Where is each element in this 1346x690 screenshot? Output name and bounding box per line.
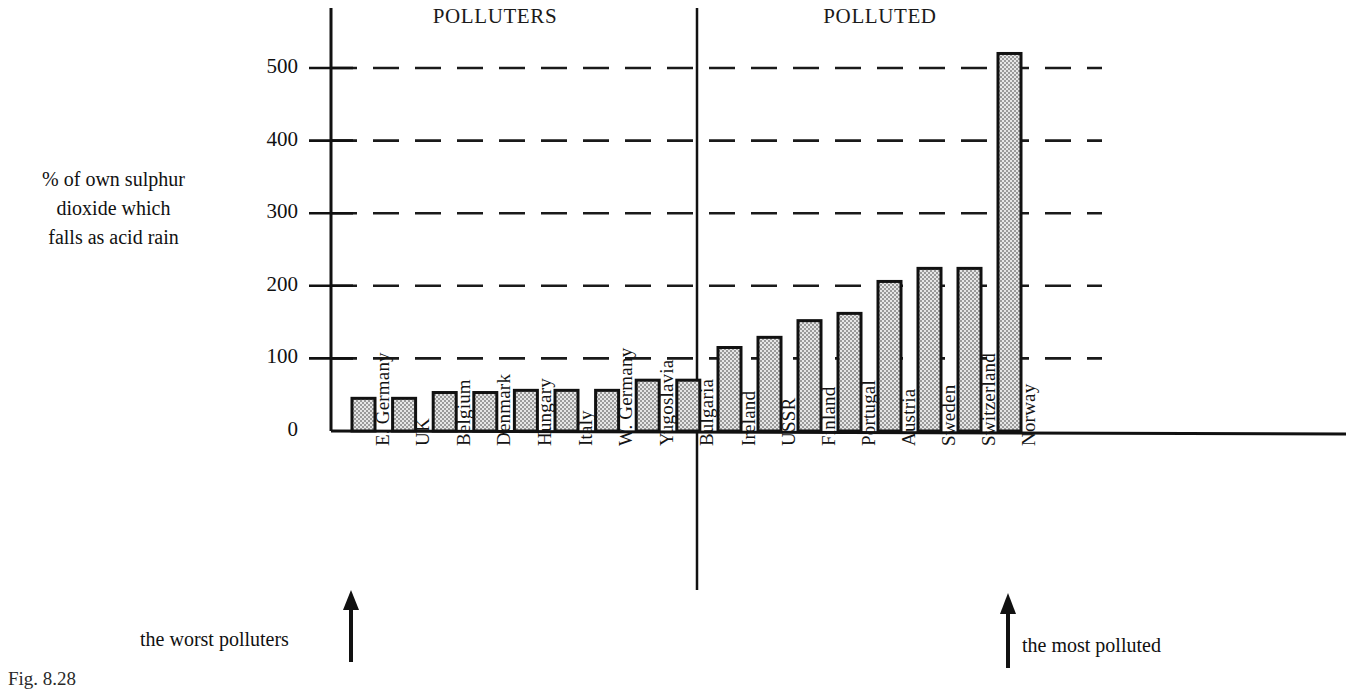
- category-label: UK: [412, 418, 434, 446]
- gridlines: [331, 68, 1102, 358]
- category-label: Ireland: [738, 391, 760, 446]
- category-label: Yugoslavia: [656, 360, 678, 446]
- category-label: USSR: [778, 398, 800, 446]
- group-title-polluters: POLLUTERS: [360, 4, 630, 29]
- category-label: W. Germany: [615, 348, 637, 446]
- category-label: Bulgaria: [696, 379, 718, 446]
- category-label: Italy: [575, 410, 597, 446]
- y-tick-label-0: 0: [238, 417, 298, 442]
- annotation-most-polluted: the most polluted: [1022, 634, 1161, 657]
- category-label: Denmark: [493, 374, 515, 446]
- category-label: Portugal: [858, 380, 880, 446]
- y-tick-label-100: 100: [238, 344, 298, 369]
- y-axis-title-line-3: falls as acid rain: [6, 223, 221, 252]
- category-label: Norway: [1018, 384, 1040, 446]
- category-label: Switzerland: [978, 353, 1000, 446]
- y-tick-label-500: 500: [238, 54, 298, 79]
- category-label: Sweden: [938, 385, 960, 446]
- category-label: Hungary: [534, 378, 556, 446]
- y-axis-title-line-1: % of own sulphur: [6, 165, 221, 194]
- y-tick-label-300: 300: [238, 199, 298, 224]
- y-axis-title: % of own sulphur dioxide which falls as …: [6, 165, 221, 252]
- group-title-polluted: POLLUTED: [745, 4, 1015, 29]
- bar: [998, 53, 1021, 431]
- worst-polluters-arrow: [343, 590, 359, 662]
- category-label: Belgium: [453, 379, 475, 446]
- bar-series: [352, 53, 1021, 431]
- category-label: Finland: [818, 387, 840, 446]
- y-tick-label-200: 200: [238, 272, 298, 297]
- figure-caption: Fig. 8.28: [8, 668, 76, 690]
- category-label: Austria: [898, 389, 920, 446]
- category-label: E. Germany: [372, 352, 394, 446]
- annotation-worst-polluters: the worst polluters: [140, 628, 289, 651]
- y-axis-title-line-2: dioxide which: [6, 194, 221, 223]
- y-tick-label-400: 400: [238, 127, 298, 152]
- most-polluted-arrow: [1000, 593, 1016, 668]
